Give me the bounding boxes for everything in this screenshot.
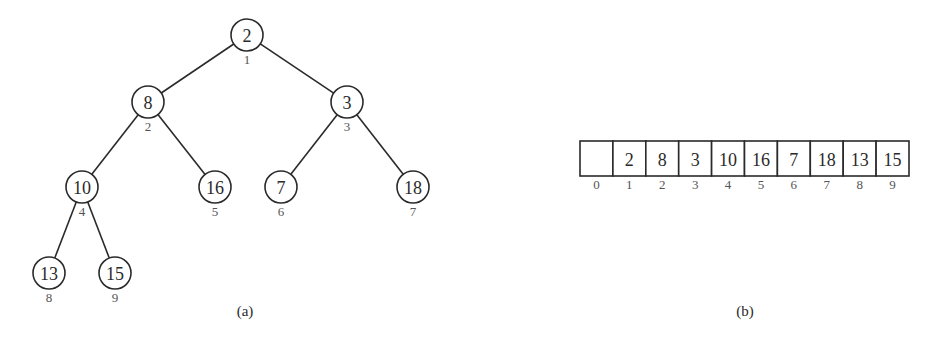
node-index: 5: [212, 204, 219, 219]
cell-box: [580, 141, 613, 176]
cell-value: 13: [851, 150, 869, 170]
cell-index: 5: [758, 177, 765, 192]
node-index: 3: [344, 119, 351, 134]
node-value: 18: [404, 178, 422, 198]
tree-node: 165: [199, 171, 231, 219]
array-cell: 0: [580, 141, 613, 192]
array-cell: 165: [745, 141, 778, 192]
node-index: 9: [112, 290, 119, 305]
cell-index: 7: [824, 177, 831, 192]
tree-edge: [88, 202, 110, 258]
array-cell: 187: [810, 141, 843, 192]
tree-node: 159: [99, 257, 131, 305]
cell-index: 4: [725, 177, 732, 192]
tree-node: 33: [331, 86, 363, 134]
array-cell: 76: [777, 141, 810, 192]
cell-value: 7: [789, 150, 798, 170]
array-cell: 21: [613, 141, 646, 192]
tree-node: 138: [33, 257, 65, 305]
tree-node: 187: [397, 171, 429, 219]
tree-node: 76: [265, 171, 297, 219]
node-index: 1: [244, 52, 251, 67]
cell-value: 8: [658, 150, 667, 170]
node-index: 7: [410, 204, 417, 219]
node-value: 2: [243, 26, 252, 46]
tree-edge: [92, 115, 138, 175]
tree-edge: [357, 115, 403, 175]
tree-edges: [55, 44, 403, 258]
array-cell: 33: [679, 141, 712, 192]
heap-figure: 21823310416576187138159 (a) 021823310416…: [0, 0, 943, 346]
node-index: 2: [145, 119, 152, 134]
tree-nodes: 21823310416576187138159: [33, 19, 429, 305]
cell-value: 10: [719, 150, 737, 170]
tree-node: 82: [132, 86, 164, 134]
cell-index: 1: [626, 177, 633, 192]
array-cell: 159: [876, 141, 909, 192]
node-index: 6: [278, 204, 285, 219]
cell-value: 15: [884, 150, 902, 170]
cell-index: 2: [659, 177, 666, 192]
cell-value: 16: [752, 150, 770, 170]
node-value: 15: [106, 264, 124, 284]
cell-value: 3: [691, 150, 700, 170]
array-cell: 82: [646, 141, 679, 192]
cell-index: 6: [791, 177, 798, 192]
cell-value: 18: [818, 150, 836, 170]
node-value: 16: [206, 178, 224, 198]
array-caption: (b): [736, 303, 754, 320]
array-cell: 138: [843, 141, 876, 192]
node-index: 4: [79, 204, 86, 219]
cell-index: 0: [593, 177, 600, 192]
cell-index: 8: [856, 177, 863, 192]
array-cell: 104: [712, 141, 745, 192]
node-index: 8: [46, 290, 53, 305]
node-value: 3: [343, 93, 352, 113]
tree-edge: [158, 115, 205, 175]
tree-edge: [291, 115, 337, 175]
tree-caption: (a): [237, 303, 254, 320]
cell-value: 2: [625, 150, 634, 170]
node-value: 10: [73, 178, 91, 198]
tree-edge: [161, 44, 233, 93]
cell-index: 9: [889, 177, 896, 192]
tree-node: 104: [66, 171, 98, 219]
node-value: 7: [277, 178, 286, 198]
node-value: 13: [40, 264, 58, 284]
tree-edge: [260, 44, 333, 93]
tree-edge: [55, 202, 77, 258]
node-value: 8: [144, 93, 153, 113]
heap-array: 021823310416576187138159: [580, 141, 909, 192]
tree-node: 21: [231, 19, 263, 67]
cell-index: 3: [692, 177, 699, 192]
